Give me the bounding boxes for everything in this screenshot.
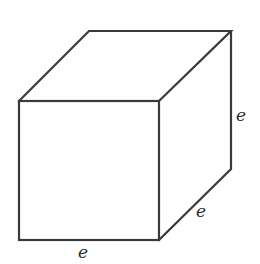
- cube-diagram: e e e: [0, 0, 260, 264]
- front-face: [19, 101, 159, 240]
- top-face-edges: [19, 31, 231, 101]
- bottom-edge-label: e: [78, 242, 88, 262]
- right-face-edges: [159, 31, 231, 240]
- height-edge-label: e: [236, 105, 246, 125]
- depth-edge-label: e: [196, 201, 206, 221]
